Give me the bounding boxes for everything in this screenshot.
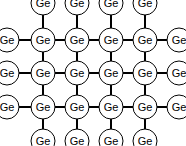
ge-atom: Ge	[99, 95, 123, 119]
atom-label: Ge	[138, 34, 153, 46]
ge-atom: Ge	[99, 0, 123, 15]
ge-atom: Ge	[99, 61, 123, 85]
atom-label: Ge	[104, 34, 119, 46]
atom-label: Ge	[70, 135, 85, 146]
atom-label: Ge	[36, 0, 51, 9]
atom-label: Ge	[70, 101, 85, 113]
ge-atom: Ge	[99, 28, 123, 52]
atom-label: Ge	[172, 67, 186, 79]
ge-atom: Ge	[31, 129, 55, 146]
ge-atom: Ge	[99, 129, 123, 146]
atom-label: Ge	[138, 0, 153, 9]
ge-atom: Ge	[133, 129, 157, 146]
ge-atom: Ge	[31, 61, 55, 85]
atom-label: Ge	[104, 67, 119, 79]
atom-label: Ge	[138, 67, 153, 79]
atom-label: Ge	[36, 101, 51, 113]
ge-atom: Ge	[167, 61, 186, 85]
atom-label: Ge	[138, 135, 153, 146]
atom-label: Ge	[172, 34, 186, 46]
atom-label: Ge	[36, 34, 51, 46]
atom-label: Ge	[172, 101, 186, 113]
atom-label: Ge	[36, 67, 51, 79]
ge-atom: Ge	[65, 61, 89, 85]
germanium-lattice-diagram: GeGeGeGeGeGeGeGeGeGeGeGeGeGeGeGeGeGeGeGe…	[0, 0, 186, 146]
atom-label: Ge	[70, 0, 85, 9]
atom-label: Ge	[70, 67, 85, 79]
ge-atom: Ge	[65, 0, 89, 15]
ge-atom: Ge	[0, 61, 19, 85]
ge-atom: Ge	[0, 95, 19, 119]
ge-atom: Ge	[133, 61, 157, 85]
ge-atom: Ge	[31, 0, 55, 15]
ge-atom: Ge	[167, 95, 186, 119]
atom-label: Ge	[104, 0, 119, 9]
atom-label: Ge	[70, 34, 85, 46]
atom-label: Ge	[0, 67, 14, 79]
ge-atom: Ge	[65, 95, 89, 119]
atom-label: Ge	[0, 101, 14, 113]
atom-label: Ge	[138, 101, 153, 113]
ge-atom: Ge	[0, 28, 19, 52]
covalent-bonds	[0, 0, 186, 146]
atom-label: Ge	[104, 135, 119, 146]
ge-atom: Ge	[65, 129, 89, 146]
ge-atom: Ge	[65, 28, 89, 52]
ge-atom: Ge	[133, 28, 157, 52]
ge-atom: Ge	[133, 95, 157, 119]
ge-atom: Ge	[133, 0, 157, 15]
atom-label: Ge	[104, 101, 119, 113]
ge-atom: Ge	[31, 28, 55, 52]
ge-atom: Ge	[167, 28, 186, 52]
atom-label: Ge	[0, 34, 14, 46]
atom-label: Ge	[36, 135, 51, 146]
ge-atom: Ge	[31, 95, 55, 119]
